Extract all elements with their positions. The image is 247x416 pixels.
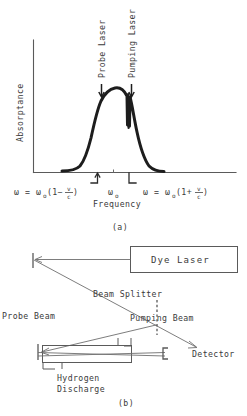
figure-canvas: Absorptance Probe Laser Pumping Laser — [0, 0, 247, 416]
hydrogen-discharge-label-line2: Discharge — [57, 384, 105, 394]
figure-a-caption: (a) — [112, 222, 128, 232]
electrode-lead-bottom-left — [43, 362, 55, 369]
xtick-left-numerator: v — [67, 185, 71, 192]
xtick-right-denominator: c — [197, 193, 201, 200]
probe-laser-annotation: Probe Laser — [97, 19, 107, 78]
probe-laser-arrow — [99, 84, 104, 97]
figure-a-group: Absorptance Probe Laser Pumping Laser — [14, 9, 236, 232]
pumping-laser-arrow — [129, 84, 134, 97]
main-beam-to-splitter — [34, 260, 196, 347]
detector-label: Detector — [192, 349, 235, 359]
xtick-center-omega: ω — [108, 187, 113, 197]
absorption-curve — [62, 88, 164, 172]
y-axis-label: Absorptance — [15, 83, 25, 142]
left-bent-pointer — [91, 173, 100, 183]
xtick-left-denominator: c — [67, 193, 71, 200]
xtick-right-equals: = — [154, 187, 159, 197]
figure-page: Absorptance Probe Laser Pumping Laser — [0, 0, 247, 416]
beam-splitter-label: Beam Splitter — [93, 289, 162, 299]
xtick-right-omega: ω — [143, 187, 148, 197]
xtick-label-right: ω = ω o (1+ v c ) — [143, 185, 208, 200]
xtick-left-omega-base: ω — [36, 187, 41, 197]
xtick-right-omega-base: ω — [165, 187, 170, 197]
xtick-left-paren-open: (1− — [47, 187, 63, 197]
xtick-left-equals: = — [25, 187, 30, 197]
probe-beam-to-mirror — [42, 325, 156, 352]
pumping-beam-arrowhead — [188, 341, 197, 348]
xtick-right-paren-open: (1+ — [176, 187, 192, 197]
electrode-lead-top-right — [124, 338, 131, 346]
x-axis-label: Frequency — [93, 199, 141, 209]
xtick-label-left: ω = ω o (1− v c ) — [14, 185, 78, 200]
dye-laser-label: Dye Laser — [151, 255, 210, 265]
pumping-beam-label: Pumping Beam — [130, 313, 194, 323]
xtick-right-numerator: v — [197, 185, 201, 192]
hydrogen-discharge-label-line1: Hydrogen — [57, 373, 100, 383]
xtick-label-center: ω o — [108, 187, 119, 199]
xtick-left-paren-close: ) — [73, 187, 78, 197]
figure-b-group: Dye Laser Beam Splitter — [2, 247, 238, 409]
figure-b-caption: (b) — [118, 398, 134, 408]
right-bent-pointer — [129, 173, 136, 183]
pumping-laser-annotation: Pumping Laser — [127, 9, 137, 78]
detector-bracket-icon — [163, 348, 168, 359]
xtick-center-subscript: o — [115, 192, 119, 199]
xtick-right-paren-close: ) — [203, 187, 208, 197]
probe-beam-label: Probe Beam — [2, 311, 55, 321]
xtick-left-omega: ω — [14, 187, 19, 197]
